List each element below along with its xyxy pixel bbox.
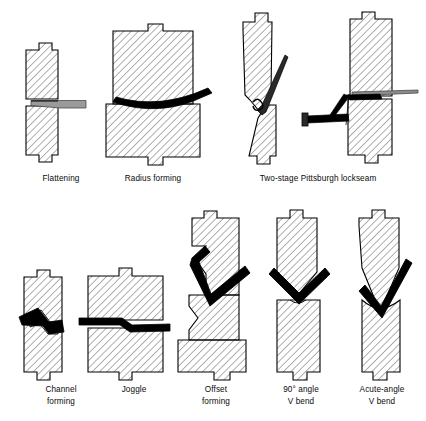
caption-v-bend-acute-line2: V bend [369, 397, 396, 406]
caption-pittsburgh-lockseam: Two-stage Pittsburgh lockseam [260, 174, 377, 183]
caption-joggle: Joggle [122, 385, 147, 394]
sheet-metal-forming-diagram: Flattening Radius forming Two-stage Pitt… [0, 0, 426, 421]
caption-v-bend-90-line1: 90° angle [283, 385, 319, 394]
lockseam-stage2-workpiece-tail [307, 114, 349, 123]
flattening-die [26, 106, 58, 162]
lockseam-stage2-tail-cap [302, 113, 308, 126]
lockseam-stage2-die [348, 99, 392, 163]
caption-channel-forming-line2: forming [47, 397, 75, 406]
joggle-punch [88, 268, 163, 320]
radius-forming-die [106, 104, 200, 165]
lockseam-stage2-punch [350, 12, 392, 96]
caption-offset-forming-line1: Offset [205, 385, 228, 394]
caption-flattening: Flattening [43, 174, 80, 183]
v-bend-90-die [277, 300, 320, 380]
caption-channel-forming-line1: Channel [45, 385, 76, 394]
caption-radius-forming: Radius forming [125, 174, 182, 183]
caption-offset-forming-line2: forming [202, 397, 230, 406]
radius-forming-punch [113, 24, 193, 104]
flattening-punch [26, 43, 58, 99]
lockseam-stage2-folded-seam [346, 94, 382, 100]
caption-v-bend-90-line2: V bend [288, 397, 315, 406]
caption-v-bend-acute-line1: Acute-angle [360, 385, 405, 394]
joggle-die [88, 328, 163, 380]
